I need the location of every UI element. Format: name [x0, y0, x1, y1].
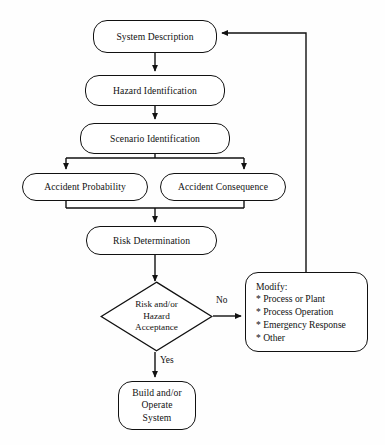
node-accident-consequence-label: Accident Consequence: [178, 181, 268, 192]
node-accident-probability-label: Accident Probability: [44, 181, 126, 192]
node-modify[interactable]: Modify: * Process or Plant * Process Ope…: [245, 272, 368, 352]
node-build-operate-system-label: Build and/or Operate System: [132, 387, 181, 425]
list-item: * Emergency Response: [256, 319, 367, 332]
node-scenario-identification[interactable]: Scenario Identification: [80, 123, 230, 154]
node-decision-risk-hazard-acceptance[interactable]: Risk and/or Hazard Acceptance: [100, 281, 213, 352]
list-item: * Other: [256, 332, 367, 345]
node-hazard-identification-label: Hazard Identification: [113, 85, 197, 96]
node-system-description-label: System Description: [116, 31, 193, 42]
edge-label-yes: Yes: [160, 355, 174, 365]
node-modify-list: * Process or Plant * Process Operation *…: [256, 293, 367, 344]
list-item: * Process or Plant: [256, 293, 367, 306]
edge-label-no: No: [216, 295, 227, 305]
node-risk-determination[interactable]: Risk Determination: [86, 226, 217, 255]
flowchart-canvas: System Description Hazard Identification…: [0, 0, 385, 445]
node-risk-determination-label: Risk Determination: [113, 235, 190, 246]
edge-modify-feedback-to-system: [222, 33, 306, 272]
node-modify-title: Modify:: [256, 281, 367, 292]
node-system-description[interactable]: System Description: [93, 20, 217, 53]
node-build-operate-system[interactable]: Build and/or Operate System: [118, 381, 196, 430]
list-item: * Process Operation: [256, 306, 367, 319]
node-hazard-identification[interactable]: Hazard Identification: [85, 75, 225, 106]
node-accident-consequence[interactable]: Accident Consequence: [160, 173, 286, 201]
node-scenario-identification-label: Scenario Identification: [110, 133, 200, 144]
node-decision-label: Risk and/or Hazard Acceptance: [100, 281, 213, 352]
flowchart-connectors: [0, 0, 385, 445]
node-accident-probability[interactable]: Accident Probability: [22, 173, 148, 201]
